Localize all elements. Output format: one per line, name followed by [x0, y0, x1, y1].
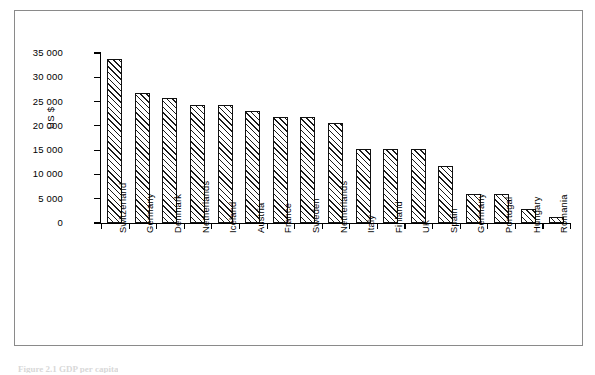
x-axis-category-label: France — [284, 203, 293, 233]
bar — [411, 149, 426, 223]
x-axis-tick — [184, 223, 185, 229]
y-axis-tick-label: 20 000 — [33, 121, 63, 131]
y-axis-tick-label: 25 000 — [33, 97, 63, 107]
x-axis-tick — [377, 223, 378, 229]
x-axis-category-label: Germany — [146, 193, 155, 233]
y-axis-tick-label: 0 — [58, 218, 63, 228]
figure-caption: Figure 2.1 GDP per capita — [18, 364, 118, 373]
figure-frame: US $ 05 00010 00015 00020 00025 00030 00… — [14, 10, 583, 346]
y-axis-tick-label: 5 000 — [38, 194, 63, 204]
x-axis-tick — [460, 223, 461, 229]
x-axis-category-label: Italy — [367, 215, 376, 233]
x-axis-category-label: Netherlands — [202, 181, 211, 233]
x-axis-category-label: Denmark — [174, 194, 183, 233]
x-axis-tick — [432, 223, 433, 229]
x-axis-tick — [156, 223, 157, 229]
y-axis-tick-label: 30 000 — [33, 73, 63, 83]
bar — [356, 149, 371, 223]
x-axis-tick — [211, 223, 212, 229]
x-axis-category-label: Portugal — [505, 197, 514, 233]
plot-area — [101, 53, 570, 223]
x-axis-tick — [101, 223, 102, 229]
x-axis-category-label: Switzerland — [119, 183, 128, 233]
y-axis-tick-label: 35 000 — [33, 48, 63, 58]
y-axis-tick-label: 10 000 — [33, 170, 63, 180]
x-axis-tick — [267, 223, 268, 229]
x-axis-category-label: Finland — [395, 201, 404, 233]
x-axis-tick — [129, 223, 130, 229]
y-axis-tick-label: 15 000 — [33, 145, 63, 155]
x-axis-tick — [294, 223, 295, 229]
x-axis-tick — [487, 223, 488, 229]
x-axis-category-label: Iceland — [229, 202, 238, 233]
x-axis-category-label: Austria — [257, 203, 266, 233]
x-axis-tick — [542, 223, 543, 229]
x-axis-category-label: Sweden — [312, 198, 321, 233]
x-axis-category-label: Spain — [450, 208, 459, 233]
x-axis-category-label: Hungary — [533, 196, 542, 233]
x-axis-category-label: Romania — [560, 194, 569, 233]
x-axis-tick — [239, 223, 240, 229]
x-axis-tick — [349, 223, 350, 229]
x-axis-tick — [404, 223, 405, 229]
x-axis-category-label: Germany — [477, 193, 486, 233]
x-axis-category-label: UK — [422, 220, 431, 233]
x-axis-line — [100, 223, 570, 224]
x-axis-tick — [570, 223, 571, 229]
x-axis-category-label: Netherlands — [340, 181, 349, 233]
x-axis-tick — [515, 223, 516, 229]
x-axis-tick — [322, 223, 323, 229]
